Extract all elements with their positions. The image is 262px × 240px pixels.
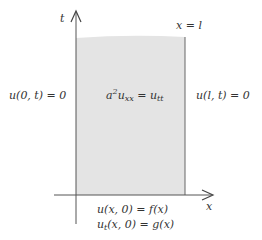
initial-condition-velocity: ut(x, 0) = g(x) — [97, 219, 174, 232]
t-axis-label: t — [60, 13, 64, 24]
boundary-label-x-equals-l: x = l — [176, 20, 202, 31]
x-axis-label: x — [206, 201, 212, 212]
right-boundary-condition: u(l, t) = 0 — [196, 90, 250, 101]
left-boundary-condition: u(0, t) = 0 — [9, 90, 66, 101]
wave-equation: a2uxx = utt — [106, 88, 164, 103]
initial-condition-displacement: u(x, 0) = f(x) — [97, 204, 168, 215]
domain-region — [76, 36, 185, 195]
